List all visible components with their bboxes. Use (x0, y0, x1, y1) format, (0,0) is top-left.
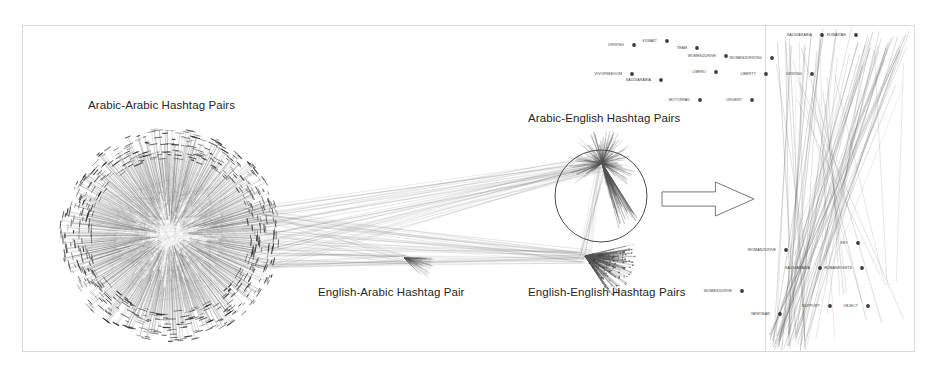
detail-panel-divider (765, 26, 766, 351)
figure-frame (22, 25, 915, 352)
cluster-label-arabic-english: Arabic-English Hashtag Pairs (528, 112, 680, 124)
cluster-label-english-arabic: English-Arabic Hashtag Pair (318, 286, 465, 298)
cluster-label-arabic-arabic: Arabic-Arabic Hashtag Pairs (88, 99, 235, 111)
cluster-label-english-english: English-English Hashtag Pairs (528, 286, 686, 298)
network-figure: DRIVINGKUWAITTEAMWOMEN2DRIVEWOMEN2DRIVIN… (0, 0, 937, 377)
